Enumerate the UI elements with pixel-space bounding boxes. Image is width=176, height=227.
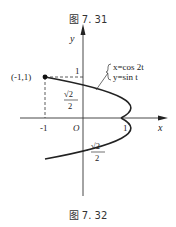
origin-label: O [73,123,80,133]
x-axis-arrow-icon [158,116,168,121]
figure-caption-bottom: 图 7. 32 [0,207,176,222]
equation-brace [106,64,111,80]
frac-neg-numerator: √2 [91,141,100,151]
equation-leader-line [96,73,108,90]
frac-neg-denominator: 2 [95,153,99,163]
y-axis-label: y [69,33,75,44]
point-label: (-1,1) [11,72,31,82]
x-axis-label: x [157,122,163,133]
tick-y-1: 1 [75,66,80,76]
equation-y: y=sin t [113,72,138,82]
tick-x-neg1: -1 [40,123,48,133]
frac-pos-denominator: 2 [68,101,72,111]
y-axis-arrow-icon [81,24,86,35]
equation-x: x=cos 2t [113,62,144,72]
parametric-diagram: y x x=cos 2t y=sin t (-1,1) 1 -1 O 1 √2 … [0,0,176,227]
frac-neg-sign: - [85,145,88,155]
tick-x-1: 1 [123,123,128,133]
point-neg1-1 [43,75,48,80]
frac-pos-numerator: √2 [64,89,73,99]
